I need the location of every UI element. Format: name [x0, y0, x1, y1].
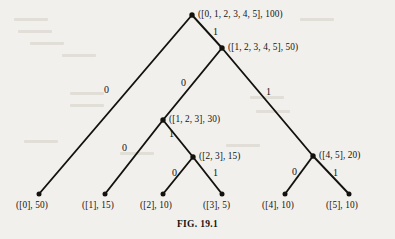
tree-edge: [163, 120, 193, 157]
figure-19-1: ([0, 1, 2, 3, 4, 5], 100)([1, 2, 3, 4, 5…: [0, 0, 395, 239]
edge-bit-label: 1: [333, 167, 338, 178]
tree-edge: [222, 48, 313, 156]
tree-node-label: ([4], 10): [262, 200, 294, 210]
tree-node-label: ([0], 50): [16, 200, 48, 210]
tree-node-label: ([2, 3], 15): [199, 151, 240, 161]
tree-edge: [163, 157, 193, 194]
tree-node-label: ([0, 1, 2, 3, 4, 5], 100): [198, 9, 283, 19]
tree-edge: [163, 48, 222, 120]
edge-bit-label: 0: [181, 77, 186, 88]
tree-edge-layer: [39, 15, 349, 194]
tree-node-label: ([3], 5): [203, 200, 230, 210]
edge-bit-label: 1: [169, 128, 174, 139]
tree-node-label: ([1, 2, 3, 4, 5], 50): [228, 42, 298, 52]
tree-edge: [313, 156, 349, 194]
edge-bit-label: 0: [292, 166, 297, 177]
tree-node-label: ([1], 15): [82, 200, 114, 210]
edge-bit-label: 0: [104, 84, 109, 95]
tree-leaf-node: [283, 192, 288, 197]
edge-bit-label: 1: [213, 26, 218, 37]
tree-edge: [285, 156, 313, 194]
tree-node-label: ([4, 5], 20): [319, 150, 360, 160]
tree-internal-node: [190, 154, 195, 159]
edge-bit-label: 1: [213, 167, 218, 178]
tree-leaf-node: [220, 192, 225, 197]
tree-internal-node: [219, 45, 224, 50]
tree-node-label: ([1, 2, 3], 30): [169, 114, 220, 124]
edge-bit-label: 0: [122, 142, 127, 153]
edge-bit-label: 0: [172, 167, 177, 178]
tree-internal-node: [310, 153, 315, 158]
edge-bit-label: 1: [266, 86, 271, 97]
tree-node-label: ([5], 10): [326, 200, 358, 210]
figure-caption: FIG. 19.1: [0, 219, 395, 229]
tree-node-label: ([2], 10): [140, 200, 172, 210]
tree-leaf-node: [347, 192, 352, 197]
tree-edge: [39, 15, 192, 194]
tree-leaf-node: [37, 192, 42, 197]
tree-internal-node: [189, 12, 194, 17]
tree-leaf-node: [103, 192, 108, 197]
tree-internal-node: [160, 117, 165, 122]
tree-edge: [105, 120, 163, 194]
tree-leaf-node: [161, 192, 166, 197]
